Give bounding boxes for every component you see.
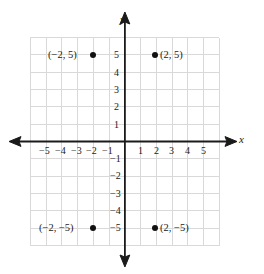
point-2-neg5 bbox=[152, 225, 158, 231]
point-2-5 bbox=[152, 52, 158, 58]
point-neg2-neg5 bbox=[90, 225, 96, 231]
coordinate-plane-figure: y x −5 −4 −3 −2 −1 1 2 3 4 5 5 4 3 2 1 −… bbox=[0, 0, 264, 274]
point-neg2-5 bbox=[90, 52, 96, 58]
data-points bbox=[0, 0, 264, 274]
